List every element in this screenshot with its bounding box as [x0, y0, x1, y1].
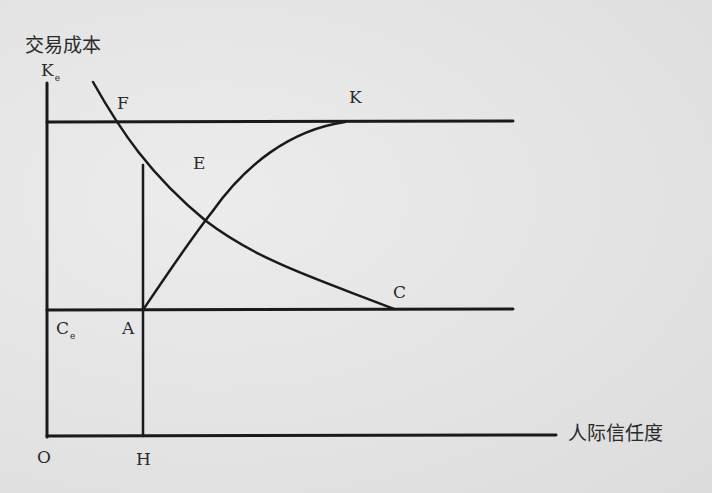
point-f-label: F: [117, 95, 129, 112]
point-e-label: E: [193, 155, 205, 172]
ce-label-main: C: [56, 318, 69, 338]
ce-label: Ce: [56, 320, 75, 341]
fc-curve: [93, 82, 394, 309]
ke-label: Ke: [41, 62, 60, 83]
x-axis: [47, 435, 556, 436]
ce-label-sub: e: [70, 331, 75, 341]
point-h-label: H: [136, 451, 151, 468]
diagram-canvas: 交易成本 Ke F E K C Ce A O H 人际信任度: [0, 0, 712, 493]
y-axis-label: 交易成本: [25, 36, 101, 55]
point-c-label: C: [393, 284, 406, 301]
ke-label-main: K: [41, 60, 54, 80]
point-k-label: K: [349, 89, 362, 106]
ke-label-sub: e: [55, 73, 60, 83]
origin-label: O: [37, 449, 51, 466]
x-axis-label: 人际信任度: [568, 424, 663, 443]
ak-curve: [143, 122, 345, 310]
ce-level-line: [47, 309, 513, 310]
point-a-label: A: [122, 320, 134, 337]
diagram-svg: [0, 0, 712, 493]
